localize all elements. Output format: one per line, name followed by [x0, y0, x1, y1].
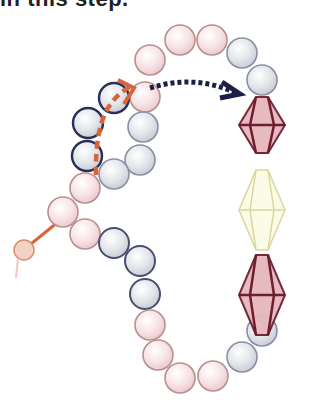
bead-gray [227, 342, 257, 372]
bead-gray [227, 38, 257, 68]
bead-gray-mid [99, 228, 129, 258]
bead-pink [70, 173, 100, 203]
bead-pink [198, 361, 228, 391]
bicone-beads [239, 97, 285, 335]
bead-pink [143, 340, 173, 370]
bead-gray [125, 145, 155, 175]
bicone-pink [239, 255, 285, 335]
bicone-pink [239, 97, 285, 153]
thread-knot-icon [14, 240, 34, 260]
bead-pink [70, 219, 100, 249]
bead-gray-mid [125, 246, 155, 276]
bead-pink [48, 197, 78, 227]
bicone-yellow [239, 170, 285, 250]
bead-gray [99, 159, 129, 189]
bead-gray-mid [130, 279, 160, 309]
bead-gray [128, 112, 158, 142]
beading-diagram [0, 0, 313, 414]
thread-tail [14, 222, 58, 278]
arrowhead-navy-icon [220, 82, 240, 98]
bead-pink [165, 363, 195, 393]
bead-pink [135, 45, 165, 75]
bead-gray [247, 65, 277, 95]
bead-pink [135, 310, 165, 340]
bead-pink [197, 25, 227, 55]
bead-pink [165, 25, 195, 55]
